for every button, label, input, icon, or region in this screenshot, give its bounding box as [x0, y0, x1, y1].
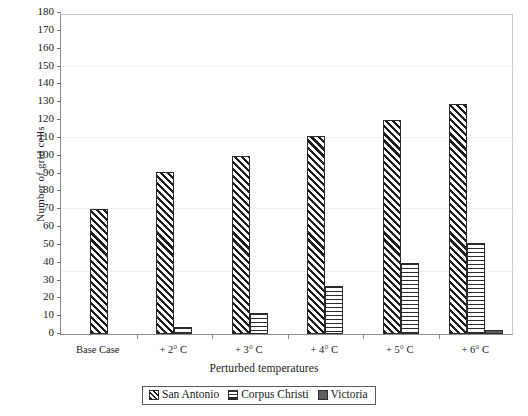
bar-san-antonio[interactable]: [307, 136, 325, 334]
legend-item-san-antonio: San Antonio: [149, 389, 219, 401]
bar-group-bars: [212, 15, 288, 334]
bar-group: [439, 15, 515, 334]
bar-group-bars: [137, 15, 213, 334]
y-axis-tick-mark: [57, 12, 61, 13]
y-axis-tick-label: 150: [38, 59, 55, 71]
x-axis-tick-label: + 2° C: [136, 344, 212, 355]
x-axis-tick-label: + 3° C: [211, 344, 287, 355]
x-axis-category-separator: [288, 334, 289, 339]
x-axis-title: Perturbed temperatures: [0, 362, 528, 374]
bar-group-bars: [363, 15, 439, 334]
y-axis-tick-label: 130: [38, 94, 55, 106]
bar-group-bars: [61, 15, 137, 334]
y-axis-tick-label: 140: [38, 76, 55, 88]
y-axis-tick-label: 180: [38, 5, 55, 17]
bar-san-antonio[interactable]: [156, 172, 174, 334]
bar-corpus-christi[interactable]: [467, 243, 485, 334]
bar-group-bars: [288, 15, 364, 334]
legend-swatch-san-antonio-icon: [149, 390, 159, 400]
y-axis-tick-label: 50: [43, 237, 54, 249]
bar-corpus-christi[interactable]: [325, 286, 343, 334]
plot-inner: 0102030405060708090100110120130140150160…: [61, 15, 512, 334]
legend-item-victoria: Victoria: [318, 389, 368, 401]
y-axis-tick-label: 90: [43, 166, 54, 178]
y-axis-tick-label: 160: [38, 41, 55, 53]
y-axis-tick-label: 110: [38, 130, 54, 142]
y-axis-tick-label: 170: [38, 23, 55, 35]
x-axis-tick-label: + 5° C: [362, 344, 438, 355]
y-axis-tick-label: 60: [43, 219, 54, 231]
y-axis-tick-label: 120: [38, 112, 55, 124]
bar-group: [61, 15, 137, 334]
bar-san-antonio[interactable]: [383, 120, 401, 334]
y-axis-tick-label: 20: [43, 290, 54, 302]
legend-swatch-corpus-christi-icon: [228, 390, 238, 400]
y-axis-tick-label: 80: [43, 183, 54, 195]
bar-chart: Number of grid cells 0102030405060708090…: [0, 0, 528, 416]
bar-corpus-christi[interactable]: [401, 263, 419, 334]
x-axis-category-separator: [212, 334, 213, 339]
y-axis-tick-label: 10: [43, 308, 54, 320]
bar-group: [137, 15, 213, 334]
bar-corpus-christi[interactable]: [174, 327, 192, 334]
bar-victoria[interactable]: [485, 330, 503, 334]
bar-corpus-christi[interactable]: [250, 313, 268, 334]
x-axis-tick-label: Base Case: [60, 344, 136, 355]
legend-label-corpus-christi: Corpus Christi: [241, 389, 308, 401]
y-axis-tick-label: 100: [38, 148, 55, 160]
legend-item-corpus-christi: Corpus Christi: [228, 389, 308, 401]
y-axis-tick-label: 70: [43, 201, 54, 213]
legend-label-victoria: Victoria: [331, 389, 368, 401]
chart-legend: San Antonio Corpus Christi Victoria: [142, 386, 376, 405]
x-axis-category-separator: [363, 334, 364, 339]
bar-group: [288, 15, 364, 334]
x-axis-tick-label: + 6° C: [438, 344, 514, 355]
y-axis-tick-label: 40: [43, 255, 54, 267]
legend-label-san-antonio: San Antonio: [162, 389, 219, 401]
bar-san-antonio[interactable]: [449, 104, 467, 334]
plot-area: 0102030405060708090100110120130140150160…: [60, 14, 513, 335]
bar-group-bars: [439, 15, 515, 334]
bar-group: [212, 15, 288, 334]
bar-san-antonio[interactable]: [232, 156, 250, 334]
y-axis-tick-label: 30: [43, 273, 54, 285]
x-axis-category-separator: [137, 334, 138, 339]
bar-group: [363, 15, 439, 334]
y-axis-tick-label: 0: [49, 326, 55, 338]
x-axis-tick-label: + 4° C: [287, 344, 363, 355]
legend-swatch-victoria-icon: [318, 390, 328, 400]
bar-san-antonio[interactable]: [90, 209, 108, 334]
x-axis-category-separator: [439, 334, 440, 339]
